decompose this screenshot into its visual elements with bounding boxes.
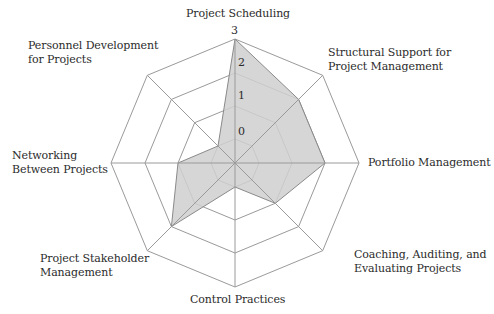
tick-label-0: 0 [238, 125, 245, 138]
axis-label-personnel-development: Personnel Development for Projects [28, 39, 158, 67]
axis-label-networking: Networking Between Projects [12, 149, 108, 177]
tick-label-2: 2 [238, 56, 245, 69]
axis-label-control-practices: Control Practices [190, 293, 285, 307]
axis-label-structural-support: Structural Support for Project Managemen… [328, 46, 451, 74]
axis-label-project-scheduling: Project Scheduling [186, 7, 290, 21]
tick-label-3: 3 [231, 24, 238, 37]
radar-spokes [111, 39, 359, 287]
axis-label-project-stakeholder: Project Stakeholder Management [40, 252, 149, 280]
axis-label-coaching-auditing: Coaching, Auditing, and Evaluating Proje… [354, 248, 487, 276]
axis-label-portfolio-management: Portfolio Management [368, 156, 491, 170]
tick-label-1: 1 [238, 89, 245, 102]
